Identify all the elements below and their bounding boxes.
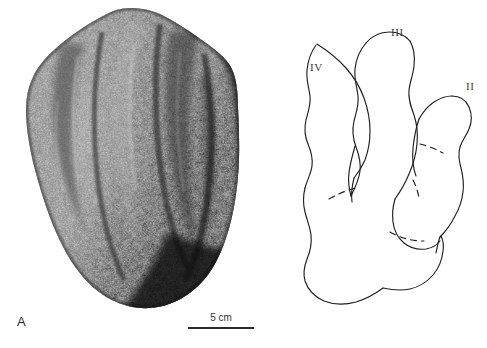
- figure-root: A 5 cm: [0, 0, 487, 348]
- cleft-iii-ii: [393, 199, 440, 249]
- rock-body: [18, 4, 250, 312]
- footprint-interpretive-outline: [280, 0, 487, 348]
- pad-crease-ii-lower: [390, 232, 424, 241]
- pad-crease-iii-base: [413, 180, 419, 198]
- digit-ii-right-edge: [440, 96, 471, 237]
- digit-ii-left-edge: [419, 96, 452, 119]
- digit-label-ii: II: [466, 80, 475, 92]
- pad-crease-group: [329, 144, 443, 241]
- heel-bottom-outline: [383, 236, 443, 290]
- rock-specimen-photograph: [18, 4, 250, 312]
- panel-b: B 5 cm: [280, 0, 487, 348]
- scalebar-label-a: 5 cm: [188, 312, 254, 324]
- digit-iv-inner-edge: [317, 44, 370, 178]
- digit-iii-right-edge: [395, 41, 417, 199]
- scalebar-panel-a: 5 cm: [188, 312, 254, 329]
- digit-ii-inner-line: [413, 119, 419, 176]
- scalebar-rule-a: [188, 327, 254, 329]
- pad-crease-ii-upper: [420, 144, 443, 153]
- heel-left-outline: [304, 188, 384, 304]
- panel-a: A 5 cm: [0, 0, 280, 348]
- panel-letter-a: A: [17, 314, 26, 329]
- digit-label-iii: III: [391, 26, 404, 38]
- digit-iii-left-edge: [351, 43, 366, 196]
- digit-label-iv: IV: [310, 61, 323, 73]
